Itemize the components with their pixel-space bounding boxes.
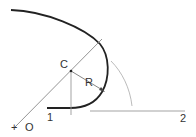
label-1: 1	[47, 111, 53, 123]
label-r: R	[85, 76, 93, 88]
label-2: 2	[180, 112, 186, 124]
origin-mark: +	[11, 121, 17, 133]
label-o: O	[25, 121, 34, 133]
diagram-canvas: C R + O 1 2	[0, 0, 196, 137]
center-point	[70, 70, 73, 73]
thin-arc	[111, 61, 132, 106]
label-c: C	[60, 58, 68, 70]
